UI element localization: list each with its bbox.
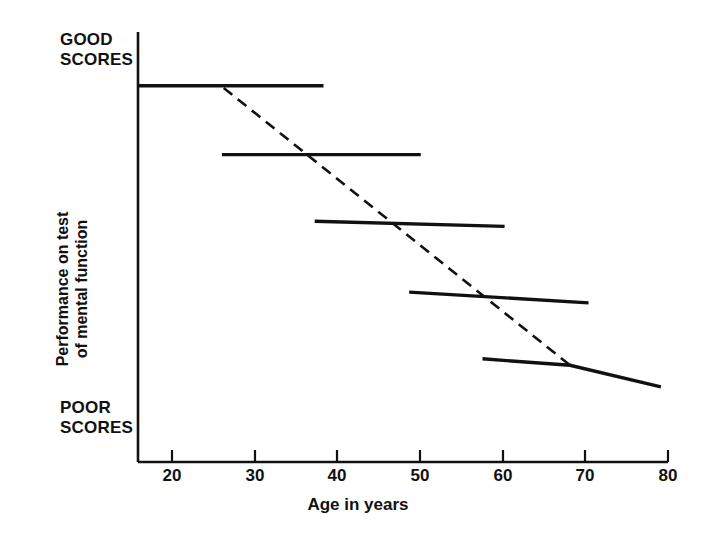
cohort-segment-3 — [315, 221, 505, 226]
plot-area — [0, 0, 716, 547]
cohort-segment-5 — [483, 359, 661, 387]
axes-group — [138, 32, 668, 462]
data-series-group — [138, 86, 661, 387]
longitudinal-trend — [224, 88, 570, 365]
chart-figure: GOOD SCORES POOR SCORES Performance on t… — [0, 0, 716, 547]
cohort-segment-4 — [409, 292, 588, 303]
x-axis-ticks — [172, 450, 668, 462]
